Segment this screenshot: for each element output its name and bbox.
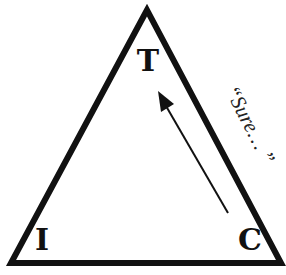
arrowhead-icon bbox=[158, 91, 174, 112]
side-label: “Sure… ” bbox=[220, 82, 280, 169]
arrow bbox=[158, 91, 228, 213]
arrow-shaft bbox=[166, 106, 228, 213]
vertex-label-bottom-right: C bbox=[238, 222, 262, 257]
vertex-label-top: T bbox=[137, 43, 160, 78]
vertex-label-bottom-left: I bbox=[35, 222, 49, 257]
triangle-diagram: T I C “Sure… ” bbox=[0, 0, 286, 275]
